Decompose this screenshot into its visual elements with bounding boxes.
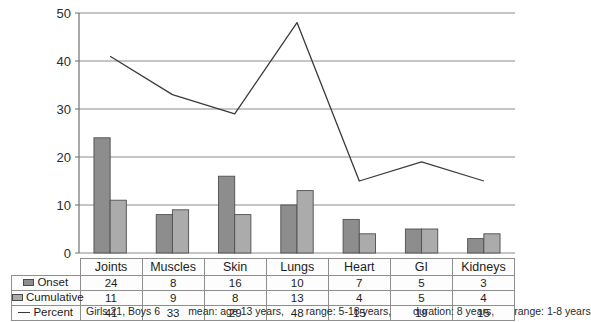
bar-cumulative-skin	[235, 215, 251, 253]
cumulative-swatch-icon	[12, 294, 23, 301]
table-col-header-gi: GI	[390, 259, 452, 276]
legend-cell-onset: Onset	[12, 276, 81, 291]
y-tick-label: 30	[57, 102, 71, 117]
bar-onset-gi	[405, 229, 421, 253]
bar-onset-muscles	[156, 215, 172, 253]
table-head: JointsMusclesSkinLungsHeartGIKidneys	[12, 259, 515, 276]
bar-onset-kidneys	[468, 239, 484, 253]
bar-cumulative-kidneys	[484, 234, 500, 253]
bar-group	[94, 138, 500, 253]
table-col-header-lungs: Lungs	[266, 259, 328, 276]
y-axis-ticks: 01020304050	[57, 6, 79, 261]
legend-label: Onset	[37, 277, 68, 289]
table-cell: 5	[390, 291, 452, 306]
bar-cumulative-lungs	[297, 191, 313, 253]
table-col-header-muscles: Muscles	[142, 259, 204, 276]
table-cell: 5	[390, 276, 452, 291]
footnote-item: range: 1-8 years	[514, 305, 590, 317]
table-header-row: JointsMusclesSkinLungsHeartGIKidneys	[12, 259, 515, 276]
table-col-header-heart: Heart	[328, 259, 390, 276]
plot-area: 01020304050	[0, 0, 527, 268]
figure-footnote: Girls 21, Boys 6mean: age 13 years,range…	[0, 305, 527, 319]
table-row: Cumulative119813454	[12, 291, 515, 306]
onset-swatch-icon	[23, 279, 34, 286]
table-row: Onset2481610753	[12, 276, 515, 291]
y-tick-label: 20	[57, 150, 71, 165]
table-col-header-kidneys: Kidneys	[452, 259, 514, 276]
bar-onset-lungs	[281, 205, 297, 253]
table-corner-cell	[12, 259, 81, 276]
y-tick-label: 40	[57, 54, 71, 69]
table-cell: 3	[452, 276, 514, 291]
bar-cumulative-gi	[422, 229, 438, 253]
table-cell: 13	[266, 291, 328, 306]
table-cell: 9	[142, 291, 204, 306]
footnote-item: mean: age 13 years,	[188, 305, 284, 317]
figure-footnote-row: Girls 21, Boys 6mean: age 13 years,range…	[0, 305, 527, 317]
bar-onset-heart	[343, 219, 359, 253]
bar-cumulative-joints	[110, 200, 126, 253]
bar-cumulative-heart	[359, 234, 375, 253]
y-tick-label: 10	[57, 198, 71, 213]
table-cell: 16	[204, 276, 266, 291]
y-tick-label: 50	[57, 6, 71, 21]
table-cell: 11	[80, 291, 142, 306]
bar-onset-joints	[94, 138, 110, 253]
legend-label: Cumulative	[26, 292, 84, 304]
legend-cell-cumulative: Cumulative	[12, 291, 81, 306]
table-cell: 4	[328, 291, 390, 306]
table-cell: 4	[452, 291, 514, 306]
footnote-item: range: 5-18 years,	[306, 305, 391, 317]
bar-onset-skin	[219, 176, 235, 253]
bar-cumulative-muscles	[172, 210, 188, 253]
table-cell: 8	[204, 291, 266, 306]
table-cell: 7	[328, 276, 390, 291]
table-col-header-joints: Joints	[80, 259, 142, 276]
footnote-item: duration: 8 years,	[413, 305, 494, 317]
table-cell: 24	[80, 276, 142, 291]
combo-chart-svg: 01020304050	[0, 0, 527, 268]
table-col-header-skin: Skin	[204, 259, 266, 276]
table-cell: 10	[266, 276, 328, 291]
table-cell: 8	[142, 276, 204, 291]
footnote-item: Girls 21, Boys 6	[86, 305, 160, 317]
